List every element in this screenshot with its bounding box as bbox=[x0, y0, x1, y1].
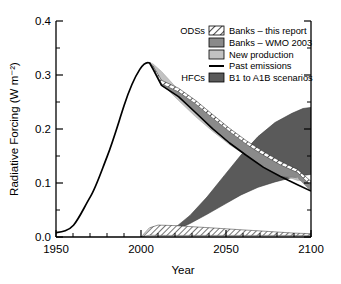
y-tick-label-3: 0.3 bbox=[35, 69, 51, 81]
legend-label-b1-a1b: B1 to A1B scenarios bbox=[229, 73, 313, 83]
legend-swatch-new-production bbox=[209, 50, 224, 59]
figure-container: 0.0 0.1 0.2 0.3 0.4 1950 2000 2050 2100 … bbox=[0, 0, 341, 284]
y-axis-title: Radiative Forcing (W m⁻²) bbox=[8, 62, 20, 196]
legend-swatch-banks-wmo2003 bbox=[209, 38, 224, 47]
y-tick-label-4: 0.4 bbox=[35, 15, 52, 27]
legend-label-banks-this-report: Banks – this report bbox=[229, 26, 307, 36]
legend-swatch-b1-a1b bbox=[209, 73, 224, 82]
legend-label-new-production: New production bbox=[229, 50, 294, 60]
chart-svg: 0.0 0.1 0.2 0.3 0.4 1950 2000 2050 2100 … bbox=[0, 0, 341, 284]
x-axis-title: Year bbox=[171, 264, 194, 276]
x-tick-label-1950: 1950 bbox=[43, 243, 69, 255]
legend-group-hfcs-label: HFCs bbox=[181, 73, 205, 83]
x-tick-label-2100: 2100 bbox=[298, 243, 324, 255]
y-tick-label-1: 0.1 bbox=[35, 177, 51, 189]
legend-label-banks-wmo2003: Banks – WMO 2003 bbox=[229, 38, 312, 48]
legend-label-past-emissions: Past emissions bbox=[229, 61, 292, 71]
y-tick-label-2: 0.2 bbox=[35, 123, 51, 135]
legend-group-ods-label: ODSs bbox=[180, 26, 205, 36]
x-tick-label-2000: 2000 bbox=[128, 243, 154, 255]
y-tick-label-0: 0.0 bbox=[35, 231, 51, 243]
legend-swatch-banks-this-report bbox=[209, 26, 224, 35]
x-tick-label-2050: 2050 bbox=[213, 243, 239, 255]
